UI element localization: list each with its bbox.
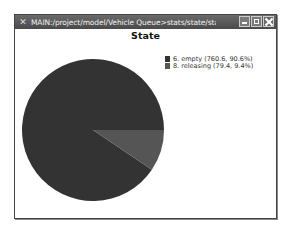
chart-window: ✕ MAIN:/project/model/Vehicle Queue>stat… [14, 14, 277, 219]
pie-chart [21, 57, 167, 203]
legend-label-releasing: 8. releasing (79.4, 9.4%) [173, 62, 253, 70]
maximize-button[interactable] [251, 16, 262, 27]
minimize-button[interactable] [239, 16, 250, 27]
title-bar[interactable]: ✕ MAIN:/project/model/Vehicle Queue>stat… [15, 15, 276, 29]
close-button[interactable] [263, 16, 274, 27]
legend: 6. empty (760.6, 90.6%) 8. releasing (79… [165, 55, 253, 69]
legend-swatch-empty [165, 56, 170, 62]
x11-icon: ✕ [18, 17, 28, 27]
chart-title: State [15, 30, 276, 41]
legend-item-releasing: 8. releasing (79.4, 9.4%) [165, 62, 253, 69]
pie-slice-empty [22, 59, 164, 201]
window-controls [239, 16, 274, 27]
legend-swatch-releasing [165, 63, 170, 69]
window-title: MAIN:/project/model/Vehicle Queue>stats/… [31, 18, 216, 27]
